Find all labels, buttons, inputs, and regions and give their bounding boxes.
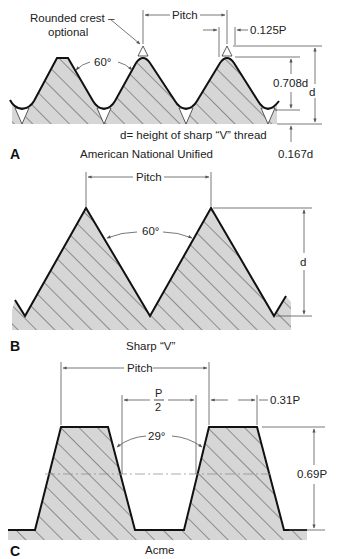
- half-pitch-numerator: P: [155, 387, 162, 399]
- root-dimension-a: 0.167d: [278, 126, 313, 160]
- panel-b-sharp-v: Pitch 60° d B Sharp “V”: [10, 171, 312, 354]
- pitch-label-a: Pitch: [172, 9, 198, 21]
- flat-dimension-c: 0.31P: [211, 394, 300, 425]
- panel-letter-c: C: [10, 543, 20, 559]
- panel-letter-b: B: [10, 338, 20, 354]
- rounded-crest-callout-line1: Rounded crest –: [30, 12, 115, 24]
- thread-forms-diagram: Rounded crest – optional Pitch 0.125P 60…: [0, 0, 339, 559]
- height-label-a: d: [309, 86, 315, 98]
- angle-annotation-c: 29°: [117, 430, 202, 447]
- pitch-dimension-c: Pitch: [61, 362, 209, 425]
- panel-a-american-national-unified: Rounded crest – optional Pitch 0.125P 60…: [10, 9, 322, 162]
- flat-dimension-a: 0.125P: [203, 24, 287, 57]
- pitch-label-b: Pitch: [136, 171, 162, 183]
- angle-label-a: 60°: [94, 56, 111, 68]
- note-a: d= height of sharp “V” thread: [120, 129, 267, 141]
- depth-label-a: 0.708d: [273, 77, 308, 89]
- panel-c-acme: Pitch P 2 0.31P 29° 0: [8, 362, 327, 559]
- callout-leader: [110, 19, 140, 44]
- root-label-a: 0.167d: [278, 148, 313, 160]
- angle-label-b: 60°: [142, 225, 159, 237]
- height-label-b: d: [300, 256, 306, 268]
- caption-a: American National Unified: [80, 148, 213, 160]
- caption-c: Acme: [145, 544, 174, 556]
- angle-label-c: 29°: [148, 430, 165, 442]
- panel-letter-a: A: [10, 146, 20, 162]
- angle-annotation-a: 60°: [76, 56, 132, 70]
- half-pitch-denominator: 2: [155, 401, 161, 413]
- pitch-dimension-b: Pitch: [86, 171, 211, 206]
- pitch-dimension-a: Pitch: [143, 9, 227, 44]
- depth-label-c: 0.69P: [297, 468, 327, 480]
- rounded-crest-callout-line2: optional: [48, 26, 88, 38]
- caption-b: Sharp “V”: [126, 340, 175, 352]
- flat-label-a: 0.125P: [250, 24, 287, 36]
- angle-annotation-b: 60°: [107, 225, 192, 238]
- flat-label-c: 0.31P: [270, 394, 300, 406]
- pitch-label-c: Pitch: [127, 362, 153, 374]
